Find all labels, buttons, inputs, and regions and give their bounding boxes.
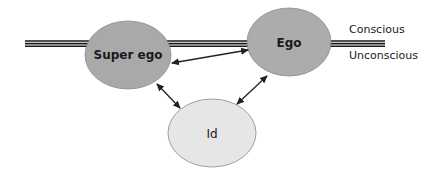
node-id-label: Id — [206, 127, 217, 141]
edge-ego-id-arrow — [237, 76, 267, 104]
conscious-label: Conscious — [349, 23, 405, 36]
unconscious-label: Unconscious — [349, 49, 418, 62]
node-superego-label: Super ego — [94, 48, 163, 62]
edge-superego-id-arrow — [157, 84, 180, 108]
node-id: Id — [168, 99, 256, 167]
node-ego: Ego — [247, 8, 331, 76]
node-superego: Super ego — [85, 21, 171, 89]
psyche-diagram: Super ego Ego Id Conscious Unconscious — [0, 0, 435, 178]
edge-superego-ego-arrow — [172, 50, 248, 63]
node-ego-label: Ego — [276, 36, 301, 50]
